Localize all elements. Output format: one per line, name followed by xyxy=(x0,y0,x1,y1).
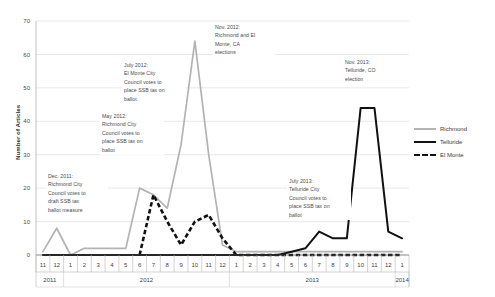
legend-item-telluride[interactable]: Telluride xyxy=(414,135,467,148)
chart-legend: RichmondTellurideEl Monte xyxy=(414,122,467,161)
y-tick-label: 50 xyxy=(23,85,30,91)
x-tick-label: 5 xyxy=(290,262,294,268)
x-tick-label: 11 xyxy=(371,262,378,268)
x-axis: 1112123456789101112123456789101112120112… xyxy=(36,255,409,287)
series-line-el-monte xyxy=(140,195,402,255)
x-tick-label: 12 xyxy=(219,262,226,268)
legend-item-el-monte[interactable]: El Monte xyxy=(414,148,467,161)
x-tick-label: 7 xyxy=(152,262,156,268)
chart-figure: Number of Articles 010203040506070111212… xyxy=(0,0,495,297)
legend-label: Richmond xyxy=(440,126,467,132)
legend-swatch-icon xyxy=(414,141,436,143)
x-tick-label: 9 xyxy=(345,262,349,268)
legend-item-richmond[interactable]: Richmond xyxy=(414,122,467,135)
annotation-july-2013: July 2013: Telluride City Council votes … xyxy=(287,176,351,220)
x-tick-label: 8 xyxy=(331,262,335,268)
y-tick-label: 20 xyxy=(23,185,30,191)
legend-label: El Monte xyxy=(440,152,464,158)
x-group-label: 2014 xyxy=(395,277,409,283)
annotation-may-2012: May 2012: Richmond City Council votes to… xyxy=(100,111,164,155)
x-tick-label: 12 xyxy=(385,262,392,268)
annotation-nov-2012: Nov. 2012: Richmond and El Monte, CA ele… xyxy=(213,22,275,58)
x-tick-label: 10 xyxy=(192,262,199,268)
annotation-july-2012: July 2012: El Monte City Council votes t… xyxy=(122,60,186,104)
x-tick-label: 12 xyxy=(53,262,60,268)
x-tick-label: 2 xyxy=(83,262,87,268)
legend-swatch-icon xyxy=(414,128,436,130)
x-tick-label: 10 xyxy=(357,262,364,268)
annotation-nov-2013: Nov. 2013: Telluride, CO election xyxy=(343,57,402,84)
legend-label: Telluride xyxy=(440,139,462,145)
x-tick-label: 1 xyxy=(69,262,73,268)
x-tick-label: 3 xyxy=(262,262,266,268)
x-tick-label: 6 xyxy=(138,262,142,268)
x-tick-label: 4 xyxy=(276,262,280,268)
x-tick-label: 1 xyxy=(400,262,404,268)
x-tick-label: 11 xyxy=(206,262,213,268)
x-tick-label: 6 xyxy=(304,262,308,268)
x-tick-label: 9 xyxy=(179,262,183,268)
y-axis-title: Number of Articles xyxy=(14,105,21,160)
y-tick-label: 0 xyxy=(27,252,31,258)
x-group-label: 2013 xyxy=(306,277,320,283)
x-tick-label: 3 xyxy=(96,262,100,268)
x-tick-label: 5 xyxy=(124,262,128,268)
x-group-label: 2012 xyxy=(140,277,154,283)
x-tick-label: 2 xyxy=(248,262,252,268)
x-tick-label: 7 xyxy=(318,262,322,268)
y-tick-label: 40 xyxy=(23,118,30,124)
x-tick-label: 11 xyxy=(40,262,47,268)
x-tick-label: 8 xyxy=(166,262,170,268)
y-tick-label: 30 xyxy=(23,152,30,158)
y-tick-label: 70 xyxy=(23,18,30,24)
legend-swatch-icon xyxy=(414,154,436,156)
x-group-label: 2011 xyxy=(43,277,57,283)
x-tick-label: 1 xyxy=(235,262,239,268)
x-tick-label: 4 xyxy=(110,262,114,268)
y-tick-label: 60 xyxy=(23,52,30,58)
annotation-dec-2011: Dec. 2011: Richmond City Council votes t… xyxy=(46,171,108,215)
y-tick-label: 10 xyxy=(23,219,30,225)
